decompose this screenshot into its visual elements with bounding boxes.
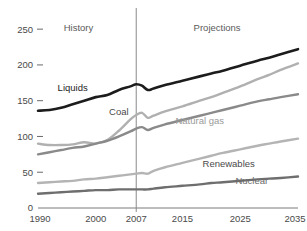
chart-canvas: 050100150200250199020002007201520252035H… [0, 0, 307, 231]
y-axis-tick-label: 0 [28, 202, 33, 213]
annotation-projections: Projections [194, 22, 241, 33]
x-axis-tick-label: 2007 [126, 213, 147, 224]
y-axis-tick-label: 100 [17, 131, 33, 142]
x-axis-tick-label: 2035 [284, 213, 305, 224]
y-axis-tick-label: 250 [17, 24, 33, 35]
series-label-renewables: Renewables [203, 158, 256, 169]
y-axis-tick-label: 150 [17, 95, 33, 106]
x-axis-tick-label: 2025 [230, 213, 251, 224]
series-label-coal: Coal [109, 106, 129, 117]
energy-consumption-line-chart: 050100150200250199020002007201520252035H… [0, 0, 307, 231]
series-label-natural-gas: Natural gas [175, 115, 224, 126]
x-axis-tick-label: 2015 [172, 213, 193, 224]
y-axis-tick-label: 50 [22, 167, 33, 178]
series-label-liquids: Liquids [58, 82, 88, 93]
series-line-coal [38, 63, 298, 145]
x-axis-tick-label: 1990 [29, 213, 50, 224]
x-axis-tick-label: 2000 [85, 213, 106, 224]
y-axis-tick-label: 200 [17, 59, 33, 70]
series-label-nuclear: Nuclear [235, 175, 268, 186]
annotation-history: History [64, 22, 94, 33]
